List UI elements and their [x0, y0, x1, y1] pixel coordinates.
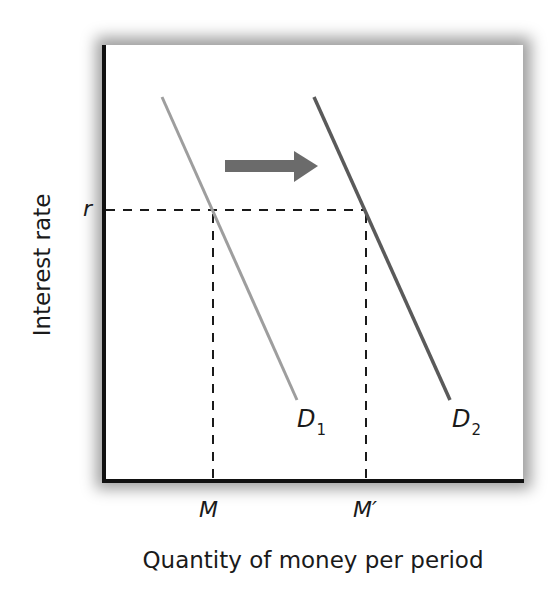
money-demand-shift-chart: Interest rate Quantity of money per peri… [0, 0, 557, 599]
d1-label-main: D [297, 405, 315, 433]
d1-curve-label: D1 [297, 405, 326, 433]
r-tick-label: r [83, 196, 92, 221]
m-prime-tick-label: M′ [353, 497, 377, 522]
demand-curve-d2 [314, 97, 450, 400]
y-axis-label: Interest rate [29, 194, 55, 337]
m-tick-label: M [199, 497, 218, 522]
x-axis-label: Quantity of money per period [142, 547, 483, 573]
demand-curve-d1 [162, 97, 297, 400]
chart-canvas [0, 0, 557, 599]
d2-label-main: D [452, 405, 470, 433]
shift-right-arrow-icon [225, 151, 318, 182]
d1-label-subscript: 1 [316, 421, 326, 439]
d2-label-subscript: 2 [471, 421, 481, 439]
d2-curve-label: D2 [452, 405, 481, 433]
